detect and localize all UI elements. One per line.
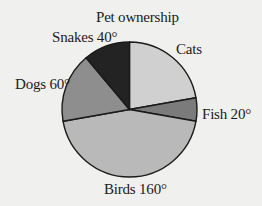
slice-label-cats: Cats: [176, 41, 202, 57]
chart-title: Pet ownership: [96, 9, 179, 25]
slice-label-dogs: Dogs 60°: [15, 76, 70, 92]
pie-slices: [62, 42, 197, 177]
slice-label-fish: Fish 20°: [202, 106, 251, 122]
slice-label-snakes: Snakes 40°: [52, 29, 117, 45]
pie-chart: Pet ownership Cats Fish 20° Birds 160° D…: [0, 0, 262, 206]
slice-label-birds: Birds 160°: [104, 181, 167, 197]
pie-chart-svg: [0, 0, 262, 206]
pie-slice-birds: [63, 110, 196, 177]
